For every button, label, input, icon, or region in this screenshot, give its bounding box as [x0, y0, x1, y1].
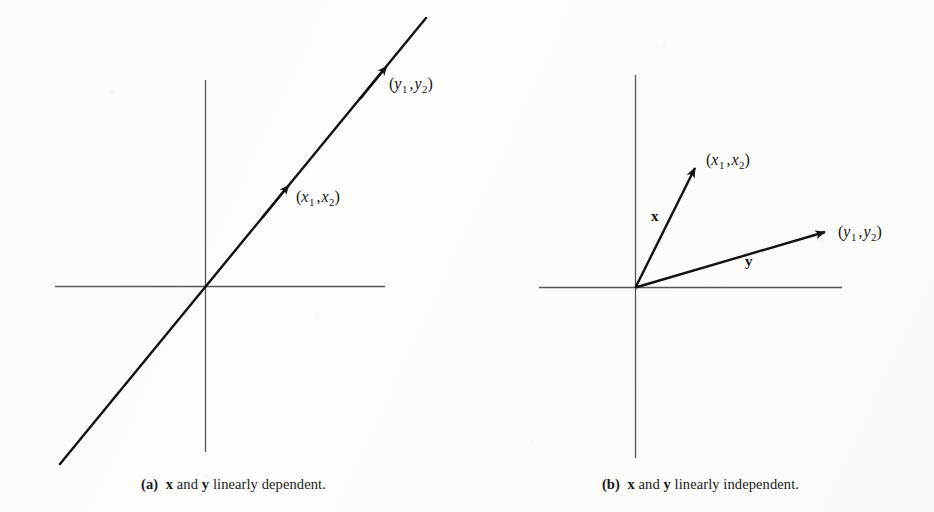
- panel-b-caption-vector-x: x: [627, 476, 634, 492]
- panel-b-caption-vector-y: y: [663, 476, 670, 492]
- panel-a-vector-x: [262, 186, 289, 219]
- panel-a-linearly-dependent: (y1,y2) (x1,x2) (a) x and y linearly dep…: [0, 0, 467, 512]
- panel-a-vector-y: [360, 67, 387, 100]
- panel-b-vector-y-name: y: [745, 254, 753, 269]
- panel-b-caption-conjunction: and: [635, 476, 664, 492]
- panel-b-caption-tag: (b): [602, 476, 620, 492]
- panel-b-vector-y: [636, 232, 826, 288]
- panel-a-caption-text: linearly dependent.: [209, 476, 326, 492]
- panel-a-caption: (a) x and y linearly dependent.: [0, 476, 467, 493]
- panel-a-point-label-x: (x1,x2): [296, 189, 340, 208]
- panel-a-caption-conjunction: and: [173, 476, 202, 492]
- panel-b-vector-x: [636, 168, 696, 288]
- panel-b-linearly-independent: (x1,x2) (y1,y2) x y (b) x and y linearly…: [467, 0, 934, 512]
- panel-b-vector-x-name: x: [651, 209, 659, 224]
- panel-a-plot: [0, 0, 467, 470]
- panel-b-caption: (b) x and y linearly independent.: [467, 476, 934, 493]
- panel-b-point-label-x: (x1,x2): [706, 152, 750, 171]
- panel-a-caption-tag: (a): [141, 476, 158, 492]
- panel-b-caption-text: linearly independent.: [671, 476, 799, 492]
- panel-b-point-label-y: (y1,y2): [838, 224, 882, 243]
- panel-a-point-label-y: (y1,y2): [389, 76, 433, 95]
- figure-container: (y1,y2) (x1,x2) (a) x and y linearly dep…: [0, 0, 934, 512]
- panel-a-caption-vector-x: x: [166, 476, 173, 492]
